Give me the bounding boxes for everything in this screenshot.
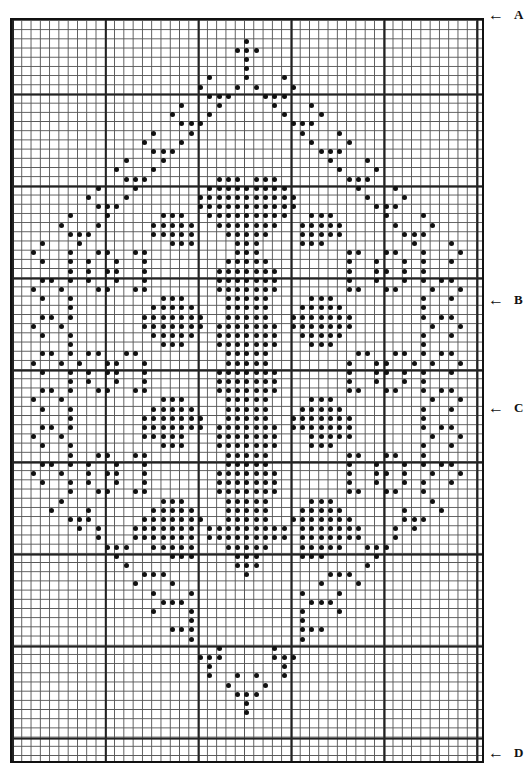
- stitch-dot: [328, 324, 333, 329]
- stitch-dot: [430, 434, 435, 439]
- stitch-dot: [217, 342, 222, 347]
- stitch-dot: [235, 489, 240, 494]
- stitch-dot: [179, 499, 184, 504]
- stitch-dot: [133, 535, 138, 540]
- stitch-dot: [68, 269, 73, 274]
- stitch-dot: [133, 453, 138, 458]
- stitch-dot: [235, 213, 240, 218]
- stitch-dot: [300, 416, 305, 421]
- stitch-dot: [254, 416, 259, 421]
- stitch-dot: [365, 563, 370, 568]
- stitch-dot: [244, 75, 249, 80]
- row-marker-c: ← C: [488, 399, 523, 417]
- stitch-dot: [226, 683, 231, 688]
- stitch-dot: [68, 213, 73, 218]
- stitch-dot: [86, 508, 91, 513]
- stitch-dot: [235, 48, 240, 53]
- stitch-dot: [133, 388, 138, 393]
- stitch-dot: [263, 517, 268, 522]
- stitch-dot: [300, 121, 305, 126]
- stitch-dot: [179, 305, 184, 310]
- stitch-dot: [198, 655, 203, 660]
- stitch-dot: [254, 296, 259, 301]
- stitch-dot: [449, 443, 454, 448]
- stitch-dot: [439, 351, 444, 356]
- stitch-dot: [254, 204, 259, 209]
- stitch-dot: [421, 296, 426, 301]
- stitch-dot: [272, 278, 277, 283]
- stitch-dot: [309, 223, 314, 228]
- stitch-dot: [59, 223, 64, 228]
- stitch-dot: [170, 517, 175, 522]
- stitch-dot: [31, 434, 36, 439]
- stitch-dot: [151, 149, 156, 154]
- stitch-dot: [337, 425, 342, 430]
- stitch-dot: [402, 269, 407, 274]
- stitch-dot: [151, 508, 156, 513]
- stitch-dot: [337, 407, 342, 412]
- stitch-dot: [254, 241, 259, 246]
- stitch-dot: [114, 361, 119, 366]
- stitch-dot: [328, 572, 333, 577]
- stitch-dot: [309, 213, 314, 218]
- stitch-dot: [114, 269, 119, 274]
- stitch-dot: [421, 278, 426, 283]
- stitch-dot: [254, 48, 259, 53]
- stitch-dot: [337, 333, 342, 338]
- stitch-dot: [217, 434, 222, 439]
- stitch-dot: [300, 407, 305, 412]
- stitch-dot: [384, 204, 389, 209]
- stitch-dot: [402, 259, 407, 264]
- stitch-dot: [300, 627, 305, 632]
- stitch-dot: [272, 370, 277, 375]
- stitch-dot: [235, 232, 240, 237]
- stitch-dot: [309, 535, 314, 540]
- stitch-dot: [179, 296, 184, 301]
- stitch-dot: [170, 581, 175, 586]
- stitch-dot: [142, 370, 147, 375]
- stitch-dot: [142, 471, 147, 476]
- stitch-dot: [254, 563, 259, 568]
- stitch-dot: [198, 204, 203, 209]
- stitch-dot: [309, 342, 314, 347]
- stitch-dot: [151, 425, 156, 430]
- stitch-dot: [217, 471, 222, 476]
- stitch-dot: [272, 535, 277, 540]
- stitch-dot: [217, 425, 222, 430]
- stitch-dot: [235, 545, 240, 550]
- stitch-dot: [319, 434, 324, 439]
- stitch-dot: [439, 315, 444, 320]
- stitch-dot: [151, 517, 156, 522]
- stitch-dot: [235, 370, 240, 375]
- stitch-dot: [449, 480, 454, 485]
- stitch-dot: [328, 213, 333, 218]
- stitch-dot: [49, 388, 54, 393]
- stitch-dot: [179, 517, 184, 522]
- stitch-dot: [244, 471, 249, 476]
- stitch-dot: [300, 526, 305, 531]
- stitch-dot: [421, 232, 426, 237]
- stitch-dot: [254, 554, 259, 559]
- stitch-dot: [151, 315, 156, 320]
- stitch-dot: [263, 407, 268, 412]
- stitch-dot: [40, 296, 45, 301]
- stitch-dot: [226, 305, 231, 310]
- stitch-dot: [272, 342, 277, 347]
- stitch-dot: [309, 296, 314, 301]
- stitch-dot: [244, 342, 249, 347]
- stitch-dot: [170, 324, 175, 329]
- stitch-dot: [133, 287, 138, 292]
- stitch-dot: [198, 315, 203, 320]
- stitch-dot: [96, 489, 101, 494]
- stitch-dot: [142, 361, 147, 366]
- marker-label: D: [514, 745, 523, 761]
- stitch-dot: [189, 407, 194, 412]
- stitch-dot: [86, 370, 91, 375]
- stitch-dot: [114, 370, 119, 375]
- stitch-dot: [179, 443, 184, 448]
- stitch-dot: [309, 241, 314, 246]
- stitch-dot: [328, 499, 333, 504]
- stitch-dot: [328, 526, 333, 531]
- stitch-dot: [309, 103, 314, 108]
- stitch-dot: [105, 361, 110, 366]
